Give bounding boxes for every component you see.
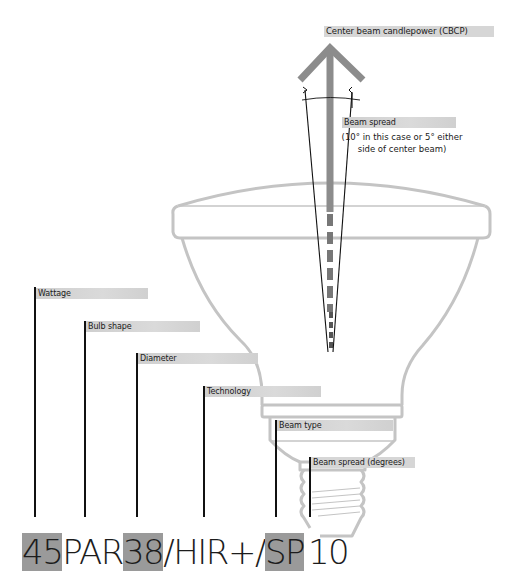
code-wattage: 45	[22, 533, 62, 571]
cbcp-label: Center beam candlepower (CBCP)	[324, 26, 494, 37]
code-beam-type: SP	[265, 533, 304, 571]
wattage-leader-line	[34, 287, 36, 517]
bulb-shape-label: Bulb shape	[86, 321, 200, 332]
technology-label: Technology	[205, 386, 321, 397]
code-beam-spread: 10	[304, 533, 348, 571]
technology-leader-line	[203, 386, 205, 517]
beam-spread-degrees-label: Beam spread (degrees)	[311, 457, 415, 468]
beam-spread-note-line1: (10° in this case or 5° either	[337, 131, 467, 143]
beam-type-leader-line	[275, 420, 277, 517]
lamp-code: 45PAR38/HIR+/SP10	[22, 533, 348, 571]
bulb-shape-leader-line	[84, 321, 86, 517]
diameter-label: Diameter	[138, 353, 258, 364]
code-technology: /HIR+/	[163, 533, 265, 571]
beam-spread-label: Beam spread	[342, 117, 456, 128]
code-bulb-shape: PAR	[62, 533, 123, 571]
wattage-label: Wattage	[36, 288, 148, 299]
diameter-leader-line	[136, 353, 138, 517]
code-diameter: 38	[123, 533, 163, 571]
center-beam-arrow-icon	[300, 48, 363, 350]
par-lamp-code-diagram: Center beam candlepower (CBCP) Beam spre…	[0, 0, 519, 577]
beam-spread-note-line2: side of center beam)	[337, 143, 467, 155]
beam-type-label: Beam type	[277, 420, 393, 431]
